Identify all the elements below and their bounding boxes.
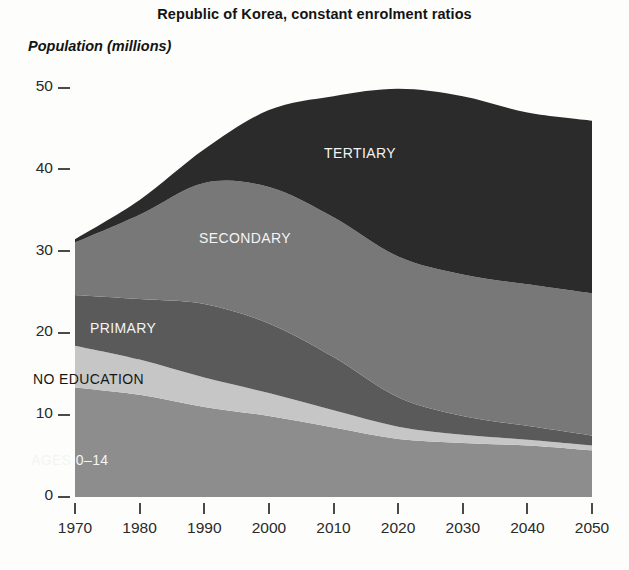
x-tick-label: 2030 <box>446 519 480 537</box>
x-tick-mark <box>397 503 399 514</box>
x-tick-mark <box>139 503 141 514</box>
chart-title: Republic of Korea, constant enrolment ra… <box>0 6 629 22</box>
x-tick-label: 1980 <box>122 519 156 537</box>
chart-root: Republic of Korea, constant enrolment ra… <box>0 0 629 570</box>
y-axis-title: Population (millions) <box>28 38 171 54</box>
y-tick-mark <box>58 168 70 170</box>
x-tick-label: 2000 <box>252 519 286 537</box>
x-tick-label: 2050 <box>575 519 609 537</box>
x-tick-label: 2010 <box>316 519 350 537</box>
y-tick-label: 40 <box>36 159 53 177</box>
x-tick-mark <box>268 503 270 514</box>
y-tick-mark <box>58 414 70 416</box>
y-tick-label: 50 <box>36 77 53 95</box>
plot-area <box>75 88 592 497</box>
x-tick-mark <box>462 503 464 514</box>
x-tick-label: 1970 <box>58 519 92 537</box>
x-tick-mark <box>333 503 335 514</box>
y-tick-label: 10 <box>36 404 53 422</box>
y-tick-mark <box>58 332 70 334</box>
x-tick-mark <box>591 503 593 514</box>
y-tick-mark <box>58 87 70 89</box>
x-tick-label: 1990 <box>187 519 221 537</box>
x-tick-label: 2020 <box>381 519 415 537</box>
x-tick-mark <box>74 503 76 514</box>
y-tick-mark <box>58 496 70 498</box>
stacked-area-svg <box>75 88 592 497</box>
x-tick-mark <box>203 503 205 514</box>
y-tick-label: 20 <box>36 322 53 340</box>
y-tick-label: 0 <box>44 486 53 504</box>
y-tick-label: 30 <box>36 241 53 259</box>
x-tick-label: 2040 <box>510 519 544 537</box>
x-tick-mark <box>526 503 528 514</box>
y-tick-mark <box>58 250 70 252</box>
